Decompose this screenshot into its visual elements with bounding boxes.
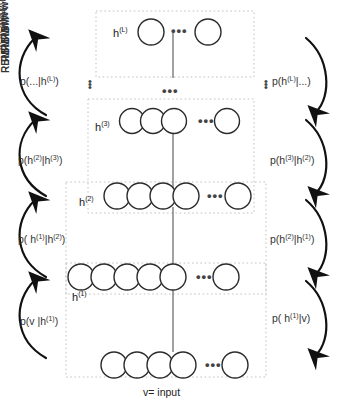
layer-h3-nodes (120, 109, 240, 134)
layer-label-hL: h(L) (113, 28, 128, 39)
rbm-label-1: RBM(1) (0, 0, 11, 73)
layer-v-ellipsis: ••• (205, 358, 222, 371)
diagram-canvas (0, 0, 351, 409)
left-prob-h2-given-h3: p(h(2)|h(3)) (18, 155, 62, 166)
layer-h2-nodes (104, 183, 251, 209)
center-vertical-ellipsis: ••• (162, 84, 179, 97)
layer-label-h2: h(2) (79, 197, 94, 208)
left-prob-top: p(...|h(L)) (20, 76, 59, 87)
dbn-diagram: h(L) h(3) h(2) h(1) ••• ••• ••• ••• ••• … (0, 0, 351, 409)
right-vertical-ellipsis: ••• (262, 80, 270, 90)
layer-h1-ellipsis: ••• (196, 270, 213, 283)
left-prob-h1-given-h2: p( h(1)|h(2)) (18, 234, 65, 245)
right-prob-h3-given-h2: p(h(3)|h(2)) (270, 155, 314, 166)
rbm-box-L (96, 11, 254, 77)
layer-h1-nodes (68, 264, 239, 290)
input-caption: v= input (143, 386, 180, 398)
layer-hL-ellipsis: ••• (171, 24, 188, 37)
layer-label-h3: h(3) (95, 122, 110, 133)
layer-h3-ellipsis: ••• (198, 114, 215, 127)
layer-h2-ellipsis: ••• (207, 189, 224, 202)
layer-v-nodes (101, 352, 248, 378)
right-prob-h1-given-v: p( h(1)|v) (272, 313, 310, 324)
right-prob-hL-given-dots: p(h(L)|...) (272, 76, 311, 87)
layer-label-h1: h(1) (72, 292, 87, 303)
right-prob-h2-given-h1: p(h(2)|h(1)) (270, 234, 314, 245)
left-vertical-ellipsis: ••• (86, 80, 94, 90)
left-prob-v-given-h1: p(v |h(1)) (20, 316, 58, 327)
